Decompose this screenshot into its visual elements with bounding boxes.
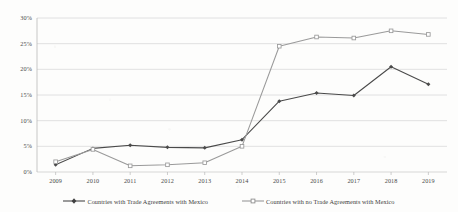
- legend-label-no-trade-agreements: Countries with no Trade Agreements with …: [266, 198, 395, 205]
- y-axis-tick-label: 5%: [2, 142, 32, 149]
- data-point[interactable]: [352, 36, 356, 40]
- x-axis-tick-label: 2017: [340, 177, 368, 184]
- legend-item-no-trade-agreements[interactable]: Countries with no Trade Agreements with …: [242, 197, 395, 205]
- data-point[interactable]: [166, 163, 170, 167]
- chart-container: 0%5%10%15%20%25%30% 20092010201120122013…: [0, 0, 458, 212]
- data-point[interactable]: [128, 143, 132, 147]
- data-point[interactable]: [315, 91, 319, 95]
- chart-legend: Countries with Trade Agreements with Mex…: [0, 197, 458, 205]
- y-axis-tick-label: 25%: [2, 40, 32, 47]
- gridlines: [37, 18, 447, 172]
- data-point[interactable]: [165, 145, 169, 149]
- y-axis-tick-label: 0%: [2, 168, 32, 175]
- y-axis-tick-label: 10%: [2, 117, 32, 124]
- x-axis-tick-label: 2015: [265, 177, 293, 184]
- data-point[interactable]: [240, 145, 244, 149]
- legend-marker-dark-icon: [63, 197, 85, 205]
- x-axis-tick-label: 2011: [116, 177, 144, 184]
- data-point[interactable]: [315, 35, 319, 39]
- y-axis-tick-label: 20%: [2, 65, 32, 72]
- legend-marker-light-icon: [242, 197, 264, 205]
- y-axis-tick-label: 15%: [2, 91, 32, 98]
- x-axis-tick-label: 2010: [79, 177, 107, 184]
- data-point[interactable]: [427, 33, 431, 37]
- data-point[interactable]: [91, 148, 95, 152]
- legend-label-trade-agreements: Countries with Trade Agreements with Mex…: [87, 198, 208, 205]
- series-line-0: [56, 67, 429, 165]
- y-axis-tick-label: 30%: [2, 14, 32, 21]
- data-point[interactable]: [203, 161, 207, 165]
- x-axis-tick-label: 2012: [153, 177, 181, 184]
- data-point[interactable]: [54, 160, 58, 164]
- data-point[interactable]: [277, 44, 281, 48]
- data-point[interactable]: [426, 82, 430, 86]
- x-axis-tick-label: 2013: [191, 177, 219, 184]
- x-axis-tick-label: 2009: [42, 177, 70, 184]
- x-axis-tick-label: 2016: [303, 177, 331, 184]
- x-axis-tick-label: 2018: [377, 177, 405, 184]
- data-point[interactable]: [128, 164, 132, 168]
- x-axis-tick-label: 2014: [228, 177, 256, 184]
- legend-item-trade-agreements[interactable]: Countries with Trade Agreements with Mex…: [63, 197, 208, 205]
- series-layer: [54, 29, 431, 168]
- data-point[interactable]: [389, 29, 393, 33]
- x-axis-tick-label: 2019: [414, 177, 442, 184]
